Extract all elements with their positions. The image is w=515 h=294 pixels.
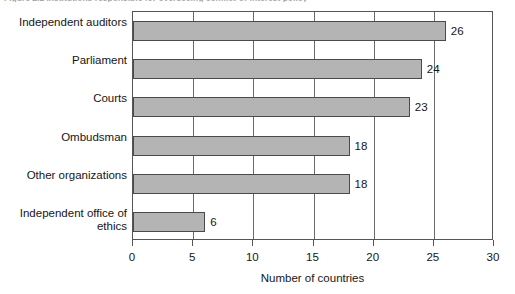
- x-tick-label: 5: [189, 250, 195, 264]
- x-tick: [373, 240, 374, 246]
- x-tick: [313, 240, 314, 246]
- x-tick: [192, 240, 193, 246]
- category-label: Ombudsman: [3, 131, 127, 145]
- x-tick: [433, 240, 434, 246]
- x-tick-label: 25: [426, 250, 439, 264]
- x-tick: [252, 240, 253, 246]
- x-tick: [132, 240, 133, 246]
- x-tick: [493, 240, 494, 246]
- x-tick-label: 20: [366, 250, 379, 264]
- category-label: Independent office of ethics: [3, 207, 127, 234]
- x-tick-label: 10: [246, 250, 259, 264]
- bar-chart: 26242318186 Independent auditorsParliame…: [0, 0, 515, 294]
- category-label: Independent auditors: [3, 16, 127, 30]
- category-label: Parliament: [3, 54, 127, 68]
- category-label: Courts: [3, 92, 127, 106]
- category-axis-labels: Independent auditorsParliamentCourtsOmbu…: [0, 11, 515, 240]
- x-axis-title: Number of countries: [132, 272, 493, 284]
- x-tick-label: 30: [487, 250, 500, 264]
- category-label: Other organizations: [3, 169, 127, 183]
- x-tick-label: 0: [129, 250, 135, 264]
- x-tick-label: 15: [306, 250, 319, 264]
